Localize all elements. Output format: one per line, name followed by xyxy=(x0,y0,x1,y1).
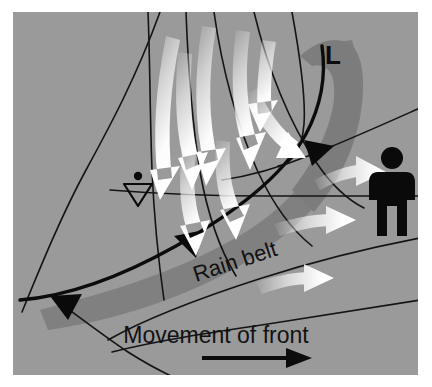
precipitation-dot-icon xyxy=(134,172,142,180)
movement-of-front-label: Movement of front xyxy=(123,322,309,348)
weather-diagram-figure: L Rain belt Movement of front xyxy=(0,0,432,387)
low-pressure-label: L xyxy=(325,40,341,70)
weather-diagram-canvas: L Rain belt Movement of front xyxy=(0,0,432,387)
